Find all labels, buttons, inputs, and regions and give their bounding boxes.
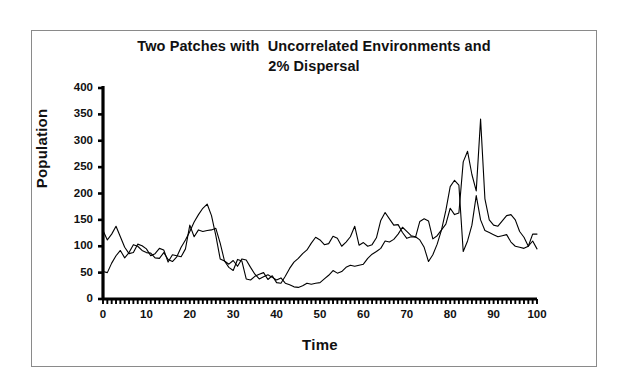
y-tick-label: 400 <box>59 81 93 93</box>
series-line <box>103 119 537 283</box>
y-tick-label: 150 <box>59 213 93 225</box>
chart-figure: Two Patches with Uncorrelated Environmen… <box>0 0 628 390</box>
x-tick-label: 50 <box>303 308 337 320</box>
data-series-lines <box>103 119 537 287</box>
x-tick-label: 20 <box>173 308 207 320</box>
y-tick-label: 50 <box>59 266 93 278</box>
axis-ticks <box>98 88 537 304</box>
axis-lines <box>103 86 537 299</box>
x-tick-label: 90 <box>477 308 511 320</box>
y-tick-label: 300 <box>59 134 93 146</box>
x-tick-label: 100 <box>520 308 554 320</box>
y-tick-label: 0 <box>59 292 93 304</box>
x-tick-label: 80 <box>433 308 467 320</box>
y-tick-label: 250 <box>59 160 93 172</box>
x-tick-label: 60 <box>346 308 380 320</box>
y-tick-label: 350 <box>59 107 93 119</box>
y-tick-label: 100 <box>59 239 93 251</box>
plot-area <box>0 0 628 390</box>
x-tick-label: 40 <box>260 308 294 320</box>
x-tick-label: 0 <box>86 308 120 320</box>
x-tick-label: 70 <box>390 308 424 320</box>
series-line <box>103 180 537 287</box>
y-tick-label: 200 <box>59 187 93 199</box>
x-tick-label: 10 <box>129 308 163 320</box>
x-tick-label: 30 <box>216 308 250 320</box>
